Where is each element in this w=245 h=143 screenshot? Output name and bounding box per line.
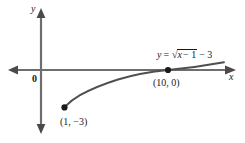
equation-equals: = <box>163 49 169 60</box>
origin-label: 0 <box>32 74 37 84</box>
graph-figure: y x 0 y=√x− 1− 3 (10, 0) (1, −3) <box>0 0 245 143</box>
y-axis-top-arrow <box>37 8 46 18</box>
equation-lhs: y <box>157 49 161 60</box>
radicand-variable: x <box>178 49 182 60</box>
point-marker-endpoint <box>61 104 67 110</box>
radical-expression: √x− 1 <box>171 49 197 60</box>
x-axis-label: x <box>229 72 233 82</box>
y-axis-label: y <box>31 4 35 14</box>
y-axis-bottom-arrow <box>37 124 46 134</box>
point-label-endpoint: (1, −3) <box>60 117 87 127</box>
equation-tail: − 3 <box>199 49 212 60</box>
x-axis-left-arrow <box>8 66 18 75</box>
point-marker-x-intercept <box>165 67 171 73</box>
equation-label: y=√x− 1− 3 <box>157 49 212 60</box>
coordinate-plane <box>0 0 245 143</box>
radicand: x− 1 <box>177 49 198 60</box>
radicand-rest: − 1 <box>183 49 196 60</box>
point-label-x-intercept: (10, 0) <box>153 78 180 88</box>
